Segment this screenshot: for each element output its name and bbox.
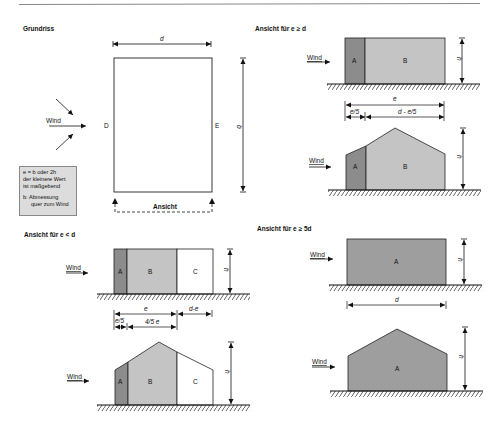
floor-plan-title: Grundriss bbox=[23, 25, 54, 32]
dim-e-label: e bbox=[144, 305, 148, 312]
ground-hatch bbox=[330, 391, 483, 397]
wind-arrow-diagonal-top bbox=[56, 99, 73, 115]
view-e-ge-d-title: Ansicht für e ≥ d bbox=[255, 25, 306, 32]
note-line-4: b: Abmessung bbox=[23, 194, 73, 201]
dim-e-label: e bbox=[393, 95, 397, 102]
building-outline bbox=[114, 58, 212, 192]
zone-a-label: A bbox=[394, 258, 399, 265]
dim-45e-label: 4/5 e bbox=[145, 318, 160, 325]
dim-d-label: d bbox=[160, 35, 164, 42]
wind-label: Wind bbox=[66, 264, 81, 271]
note-line-3: ist maßgebend bbox=[23, 183, 73, 190]
view-e-ge-5d-title: Ansicht für e ≥ 5d bbox=[257, 225, 312, 232]
ground-hatch bbox=[329, 285, 482, 291]
side-d-label: D bbox=[104, 122, 109, 129]
definition-note-box: e = b oder 2h der kleinere Wert ist maßg… bbox=[19, 166, 77, 216]
wind-arrow-diagonal-bottom bbox=[56, 134, 73, 150]
dim-h-label: h bbox=[457, 258, 464, 262]
wind-label: Wind bbox=[312, 358, 327, 365]
view-label: Ansicht bbox=[153, 203, 178, 210]
zone-a-label: A bbox=[353, 163, 358, 170]
zone-c-label: C bbox=[193, 268, 198, 275]
ground-hatch bbox=[97, 294, 250, 300]
dim-de-label: d-e bbox=[189, 305, 199, 312]
dim-rest-label: d - e/5 bbox=[398, 108, 417, 115]
dim-h-label: h bbox=[456, 155, 463, 159]
view-e-ge-d-section: Ansicht für e ≥ d Wind A B h e e/5 d - e… bbox=[255, 25, 480, 121]
zone-b-label: B bbox=[148, 268, 152, 275]
view-arrow-right-icon bbox=[209, 198, 215, 204]
zone-a-label: A bbox=[118, 268, 123, 275]
ground-hatch bbox=[327, 84, 480, 90]
view-e-ge-5d-section: Ansicht für e ≥ 5d Wind A h d bbox=[257, 225, 482, 309]
dim-h-label: h bbox=[458, 355, 465, 359]
view-e-ge-5d-gabled-section: Wind A h bbox=[312, 327, 483, 397]
zone-a-label: A bbox=[352, 57, 357, 64]
wind-label: Wind bbox=[67, 373, 82, 380]
ground-hatch bbox=[97, 405, 250, 411]
side-e-label: E bbox=[215, 122, 220, 129]
dim-d-label: d bbox=[395, 296, 399, 303]
note-line-2: der kleinere Wert bbox=[23, 176, 73, 183]
wind-label: Wind bbox=[307, 54, 322, 61]
dim-b-label: b bbox=[236, 125, 243, 129]
wind-label: Wind bbox=[309, 157, 324, 164]
zone-a-label: A bbox=[118, 378, 123, 385]
wind-label: Wind bbox=[310, 251, 325, 258]
view-arrow-left-icon bbox=[112, 198, 118, 204]
zone-b-label: B bbox=[403, 57, 407, 64]
zone-b bbox=[128, 342, 177, 405]
view-e-lt-d-gabled-section: Wind A B C h bbox=[67, 342, 250, 411]
view-e-ge-d-gabled-section: Wind A B h bbox=[309, 128, 481, 196]
header-rule bbox=[19, 4, 480, 5]
zone-c-label: C bbox=[193, 378, 198, 385]
dim-h-label: h bbox=[224, 370, 231, 374]
dim-h-label: h bbox=[223, 268, 230, 272]
note-line-5: quer zum Wind bbox=[23, 201, 73, 208]
zone-a bbox=[348, 329, 447, 391]
wind-label: Wind bbox=[46, 117, 61, 124]
dim-e5-label: e/5 bbox=[115, 317, 124, 324]
view-e-lt-d-title: Ansicht für e < d bbox=[24, 231, 75, 238]
zone-a-label: A bbox=[395, 365, 400, 372]
zone-b bbox=[366, 128, 445, 190]
dim-e5-label: e/5 bbox=[350, 108, 359, 115]
note-line-1: e = b oder 2h bbox=[23, 169, 73, 176]
ground-hatch bbox=[328, 190, 481, 196]
zone-b-label: B bbox=[148, 378, 152, 385]
view-e-lt-d-section: Ansicht für e < d Wind A B C h e d-e e/5… bbox=[24, 231, 250, 330]
zone-b-label: B bbox=[403, 163, 407, 170]
dim-h-label: h bbox=[456, 57, 463, 61]
